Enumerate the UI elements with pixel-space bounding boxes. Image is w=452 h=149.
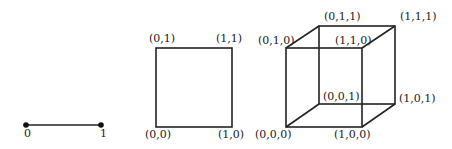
label-11: (1,1) [216, 32, 242, 45]
label-110: (1,1,0) [335, 34, 372, 47]
cube-edge-100-101 [362, 104, 395, 127]
cube-front-face [286, 48, 362, 127]
label-0: 0 [24, 127, 31, 140]
square-edges [156, 48, 232, 127]
label-100: (1,0,0) [334, 128, 371, 141]
label-001: (0,0,1) [323, 90, 360, 103]
hypercube-diagram: 0 1 (0,0) (1,0) (0,1) (1,1) (0,0,0) (1,0… [0, 0, 452, 149]
label-111: (1,1,1) [400, 10, 437, 23]
square-2d: (0,0) (1,0) (0,1) (1,1) [145, 32, 244, 141]
label-1: 1 [100, 127, 107, 140]
label-011: (0,1,1) [324, 10, 361, 23]
cube-3d: (0,0,0) (1,0,0) (0,1,0) (1,1,0) (0,0,1) … [255, 10, 437, 141]
label-00: (0,0) [145, 128, 171, 141]
label-000: (0,0,0) [255, 128, 292, 141]
label-101: (1,0,1) [399, 92, 436, 105]
label-01: (0,1) [149, 32, 175, 45]
label-10: (1,0) [218, 128, 244, 141]
segment-1d: 0 1 [23, 122, 107, 140]
cube-edge-000-001 [286, 104, 319, 127]
label-010: (0,1,0) [258, 34, 295, 47]
